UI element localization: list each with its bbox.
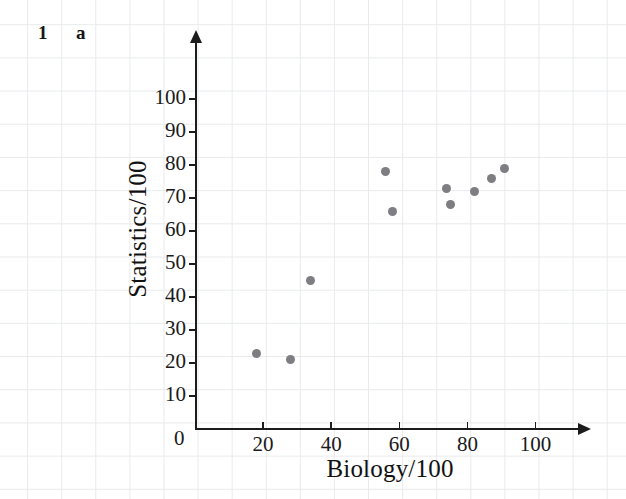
y-tick-label: 10 — [165, 382, 186, 407]
x-tick-mark — [262, 422, 264, 430]
y-tick-mark — [189, 263, 197, 265]
y-tick-label: 50 — [165, 250, 186, 275]
data-point — [306, 276, 315, 285]
x-tick-label: 80 — [437, 432, 497, 457]
x-axis-arrow-icon — [578, 423, 591, 435]
y-tick-label: 80 — [165, 151, 186, 176]
y-tick-label: 100 — [155, 85, 187, 110]
y-axis-title: Statistics/100 — [124, 79, 152, 379]
x-tick-label: 100 — [506, 432, 566, 457]
y-tick-label: 30 — [165, 316, 186, 341]
data-point — [487, 174, 496, 183]
y-axis-arrow-icon — [190, 30, 202, 43]
x-axis-title: Biology/100 — [240, 455, 540, 483]
x-tick-label: 60 — [369, 432, 429, 457]
x-tick-mark — [399, 422, 401, 430]
y-tick-label: 40 — [165, 283, 186, 308]
y-tick-mark — [189, 230, 197, 232]
data-point — [388, 207, 397, 216]
x-tick-mark — [330, 422, 332, 430]
origin-label: 0 — [174, 426, 185, 451]
data-point — [500, 164, 509, 173]
y-tick-mark — [189, 131, 197, 133]
y-tick-mark — [189, 329, 197, 331]
y-tick-label: 90 — [165, 118, 186, 143]
y-tick-mark — [189, 197, 197, 199]
y-tick-mark — [189, 296, 197, 298]
data-point — [470, 187, 479, 196]
data-point — [442, 184, 451, 193]
y-tick-mark — [189, 362, 197, 364]
data-point — [446, 200, 455, 209]
x-axis-line — [195, 428, 585, 430]
x-tick-mark — [467, 422, 469, 430]
y-tick-label: 20 — [165, 349, 186, 374]
y-tick-label: 60 — [165, 217, 186, 242]
scatter-chart: 0 102030405060708090100 20406080100 Stat… — [0, 0, 626, 499]
x-tick-label: 20 — [233, 432, 293, 457]
data-point — [252, 349, 261, 358]
y-tick-mark — [189, 164, 197, 166]
x-tick-label: 40 — [301, 432, 361, 457]
x-tick-mark — [535, 422, 537, 430]
scatter-plot-page: 1 a 0 102030405060708090100 20406080100 … — [0, 0, 626, 499]
y-tick-label: 70 — [165, 184, 186, 209]
y-tick-mark — [189, 395, 197, 397]
data-point — [286, 355, 295, 364]
y-tick-mark — [189, 98, 197, 100]
data-point — [381, 167, 390, 176]
